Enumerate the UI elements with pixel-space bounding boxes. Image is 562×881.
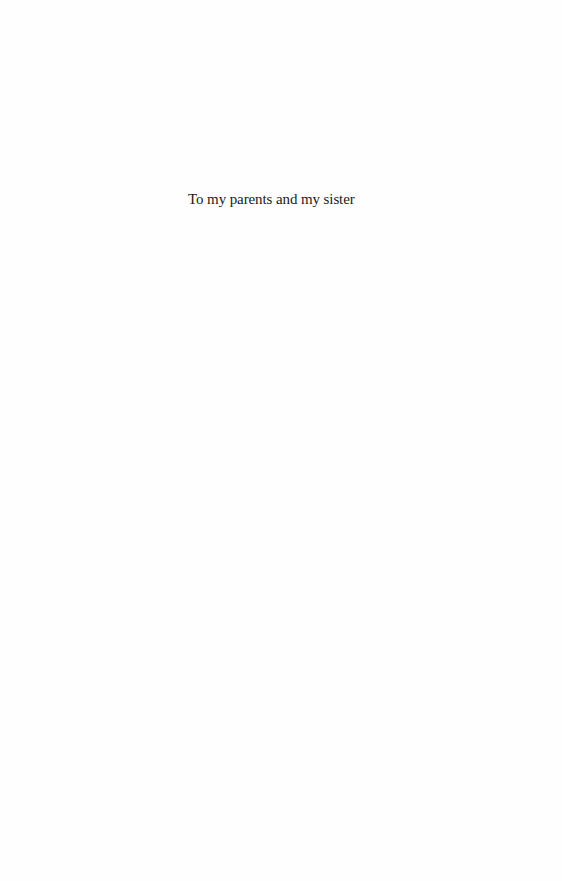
dedication-text: To my parents and my sister (188, 190, 355, 208)
book-page: To my parents and my sister (0, 0, 562, 881)
